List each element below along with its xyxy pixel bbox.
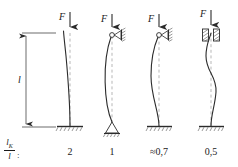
case-4-fixed-base [198, 127, 224, 132]
length-dimension [22, 33, 56, 127]
fraction-numerator: lK [5, 138, 14, 149]
case-4-ratio-value: 0,5 [197, 147, 225, 157]
fraction-stack: lK l [4, 138, 15, 161]
case-3-column-group [146, 14, 172, 131]
euler-buckling-figure: F F F F l lK l : 2 1 ≈0,7 0,5 [0, 0, 238, 167]
case-3-force-label: F [148, 14, 154, 24]
case-2-top-roller-support [110, 28, 126, 41]
case-1-ratio-value: 2 [58, 147, 82, 157]
case-3-ratio-value: ≈0,7 [144, 147, 174, 157]
case-3-fixed-base [146, 127, 172, 132]
figure-canvas [0, 0, 238, 167]
fraction-denominator: l [7, 152, 12, 161]
effective-length-ratio-label: lK l : [4, 138, 20, 161]
case-1-force-label: F [59, 12, 65, 22]
case-3-top-roller-support [157, 28, 173, 41]
case-2-column-group [103, 14, 125, 137]
length-label: l [18, 75, 21, 85]
case-2-ratio-value: 1 [100, 147, 124, 157]
case-1-fixed-base [56, 127, 83, 132]
case-4-column-group [198, 10, 224, 131]
case-2-force-label: F [101, 14, 107, 24]
case-4-force-label: F [200, 9, 206, 19]
case-1-column-group [56, 12, 83, 131]
case-2-bottom-pin-support [103, 122, 120, 137]
fraction-colon: : [17, 150, 20, 161]
